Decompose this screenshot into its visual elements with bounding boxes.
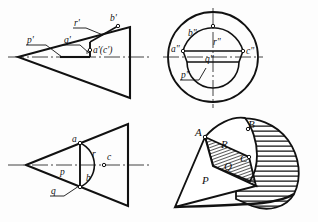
front-view-label-b-prime: b' (110, 13, 118, 23)
side-view-point-a (181, 49, 184, 52)
pictorial-point-A (203, 135, 206, 138)
top-view-label-b: b (86, 173, 91, 183)
side-view-label-p-double: p" (180, 70, 191, 80)
pictorial-label-P: P (201, 174, 209, 186)
front-view-point-ac (88, 48, 91, 51)
drawing-svg: p' q' r' b' a'(c') b" a" c" (0, 0, 318, 222)
top-view-label-r: r (92, 149, 96, 159)
side-view-label-q-double: q" (205, 54, 215, 64)
side-view-label-a-double: a" (171, 44, 181, 54)
side-view-label-b-double: b" (188, 28, 198, 38)
technical-drawing-canvas: p' q' r' b' a'(c') b" a" c" (0, 0, 318, 222)
top-view-label-a: a (72, 134, 77, 144)
pictorial-label-A: A (194, 126, 202, 138)
top-view-point-c (102, 163, 105, 166)
front-view-label-p-prime: p' (26, 35, 35, 45)
top-view-label-p: p (59, 167, 65, 177)
top-view-label-q: q (51, 186, 56, 196)
pictorial-label-C: C (240, 152, 248, 164)
front-view-label-ac-prime: a'(c') (93, 45, 112, 56)
pictorial-label-Q: Q (224, 160, 232, 172)
front-view-label-r-prime: r' (74, 18, 81, 28)
front-view-point-b (116, 24, 119, 27)
side-view-label-c-double: c" (246, 46, 255, 56)
front-view-label-q-prime: q' (64, 35, 72, 45)
pictorial-label-R: R (220, 138, 228, 150)
side-view-point-b (211, 24, 214, 27)
side-view-label-r-double: r" (213, 37, 222, 47)
side-view-point-c (241, 49, 244, 52)
pictorial-point-C (247, 155, 250, 158)
top-view-point-a (78, 141, 81, 144)
pictorial-label-B: B (248, 118, 255, 130)
